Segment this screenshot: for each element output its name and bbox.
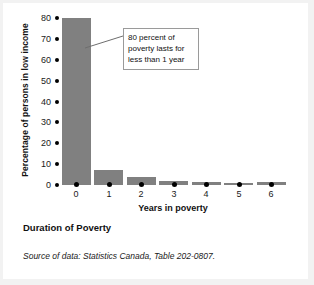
x-tick-dot-icon [107,182,112,187]
x-tick-dot-icon [74,182,79,187]
y-tick: 80 [29,12,59,24]
x-tick-label: 3 [159,189,189,199]
y-tick: 20 [29,137,59,149]
y-tick: 50 [29,75,59,87]
x-tick-dot-icon [237,182,242,187]
x-tick-dot-icon [139,182,144,187]
figure-source: Source of data: Statistics Canada, Table… [23,251,215,261]
y-tick-label: 70 [41,33,51,45]
x-tick-label: 2 [126,189,156,199]
figure-container: Percentage of persons in low income 80 7… [0,0,314,285]
y-tick-label: 30 [41,116,51,128]
y-tick: 30 [29,116,59,128]
y-tick-label: 80 [41,12,51,24]
y-tick: 70 [29,33,59,45]
y-tick-label: 60 [41,54,51,66]
callout-line-2: poverty lasts for [128,43,194,54]
y-tick-label: 10 [41,158,51,170]
y-tick: 60 [29,54,59,66]
figure-panel: Percentage of persons in low income 80 7… [3,3,308,279]
y-tick: 10 [29,158,59,170]
x-tick-label: 4 [191,189,221,199]
x-tick-dot-icon [204,182,209,187]
x-tick-label: 5 [224,189,254,199]
y-axis: 80 70 60 50 40 30 20 10 0 [29,3,59,285]
y-tick-label: 50 [41,75,51,87]
x-tick-label: 6 [256,189,286,199]
y-tick: 40 [29,96,59,108]
y-tick-label: 40 [41,96,51,108]
callout-line-1: 80 percent of [128,32,194,43]
y-tick-label: 0 [46,179,51,191]
callout-leader-line [85,33,123,51]
x-axis-title: Years in poverty [58,203,288,213]
x-tick-dot-icon [269,182,274,187]
x-tick-label: 0 [61,189,91,199]
x-tick-dot-icon [172,182,177,187]
callout-annotation: 80 percent of poverty lasts for less tha… [123,28,199,70]
figure-caption: Duration of Poverty [23,222,111,233]
y-tick: 0 [29,179,59,191]
callout-line-3: less than 1 year [128,54,194,65]
x-tick-label: 1 [94,189,124,199]
y-tick-label: 20 [41,137,51,149]
